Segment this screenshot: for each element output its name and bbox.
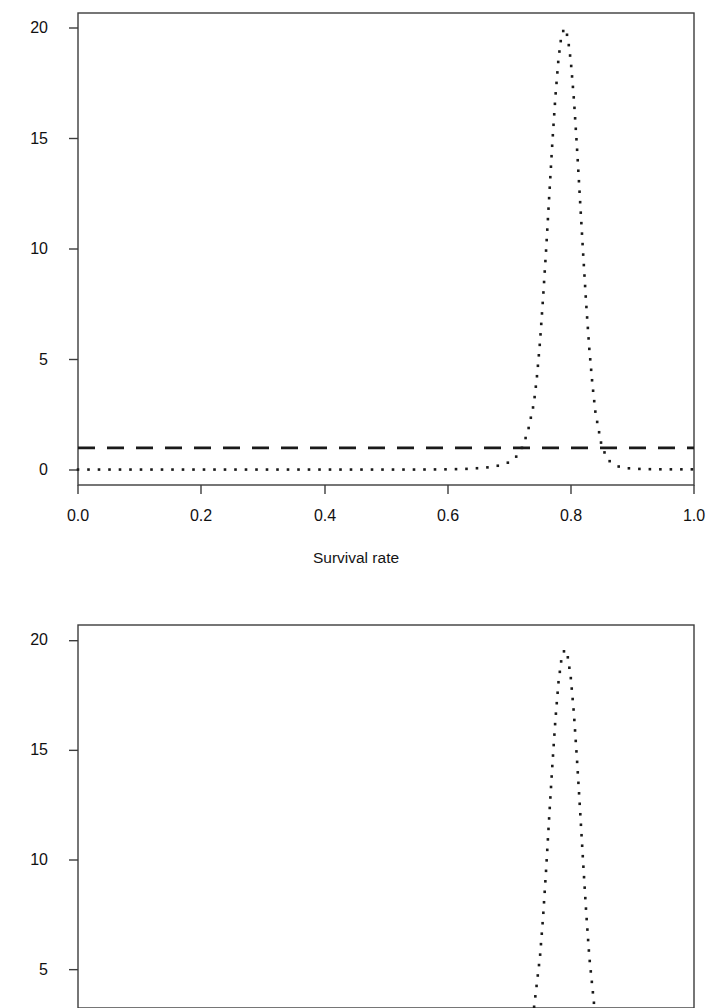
panel-1-xtick-4: 0.8 <box>541 507 601 525</box>
panel-1-xtick-0: 0.0 <box>48 507 108 525</box>
panel-2-ytick-5: 5 <box>8 961 48 979</box>
series-posterior-dotted <box>77 650 690 1008</box>
plot-panel-1: 20 15 10 5 0 0.0 0.2 0.4 0.6 0.8 1.0 Sur… <box>0 0 712 580</box>
plot-box <box>78 13 694 485</box>
panel-1-xtick-1: 0.2 <box>171 507 231 525</box>
panel-1-xtick-3: 0.6 <box>418 507 478 525</box>
panel-1-ytick-20: 20 <box>8 19 48 37</box>
panel-2-ytick-15: 15 <box>8 741 48 759</box>
panel-1-ytick-15: 15 <box>8 130 48 148</box>
series-posterior-dotted <box>77 30 693 471</box>
plot-box <box>78 625 694 1008</box>
panel-1-ytick-0: 0 <box>8 461 48 479</box>
panel-1-ytick-5: 5 <box>8 351 48 369</box>
panel-2-ytick-10: 10 <box>8 851 48 869</box>
panel-1-ytick-10: 10 <box>8 240 48 258</box>
panel-1-xtick-2: 0.4 <box>295 507 355 525</box>
plot-panel-2: 20 15 10 5 <box>0 590 712 1008</box>
panel-1-xaxis-label: Survival rate <box>0 549 712 567</box>
panel-2-ytick-20: 20 <box>8 631 48 649</box>
panel-1-xtick-5: 1.0 <box>664 507 712 525</box>
panel-2-canvas <box>0 590 712 1008</box>
panel-1-canvas <box>0 0 712 580</box>
figure-container: 20 15 10 5 0 0.0 0.2 0.4 0.6 0.8 1.0 Sur… <box>0 0 712 1008</box>
